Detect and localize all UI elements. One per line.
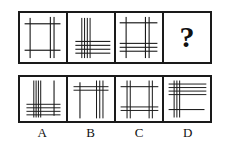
sequence-figure-3 — [116, 13, 162, 62]
option-cell-b[interactable] — [68, 77, 116, 121]
answer-options-row — [18, 75, 212, 123]
sequence-figure-1 — [20, 13, 66, 62]
question-sequence-row: ? — [18, 11, 212, 64]
option-label-c: C — [115, 124, 164, 144]
option-d-figure — [164, 77, 210, 121]
sequence-cell-1[interactable] — [20, 13, 68, 62]
option-cell-c[interactable] — [116, 77, 164, 121]
option-cell-a[interactable] — [20, 77, 68, 121]
question-mark-icon: ? — [164, 13, 210, 62]
option-b-figure — [68, 77, 114, 121]
sequence-cell-4-missing[interactable]: ? — [164, 13, 210, 62]
option-a-figure — [20, 77, 66, 121]
option-label-b: B — [67, 124, 116, 144]
option-labels-row: A B C D — [18, 124, 212, 144]
option-label-a: A — [18, 124, 67, 144]
sequence-cell-2[interactable] — [68, 13, 116, 62]
option-label-d: D — [164, 124, 213, 144]
sequence-cell-3[interactable] — [116, 13, 164, 62]
sequence-figure-2 — [68, 13, 114, 62]
option-c-figure — [116, 77, 162, 121]
option-cell-d[interactable] — [164, 77, 210, 121]
